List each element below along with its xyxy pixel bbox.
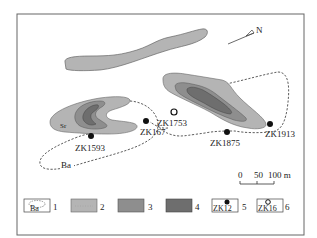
svg-text:5: 5 <box>242 202 247 212</box>
borehole-filled-icon <box>88 133 94 139</box>
svg-text:100 m: 100 m <box>268 170 291 180</box>
svg-text:6: 6 <box>285 202 290 212</box>
svg-text:1: 1 <box>53 202 58 212</box>
svg-text:0: 0 <box>238 170 243 180</box>
borehole-filled-icon <box>224 129 230 135</box>
north-label: N <box>256 25 263 35</box>
svg-text:ZK12: ZK12 <box>213 204 232 213</box>
borehole-filled-icon <box>143 118 149 124</box>
svg-text:Ba: Ba <box>30 204 39 213</box>
svg-text:ZK1875: ZK1875 <box>210 138 240 148</box>
svg-text:ZK1753: ZK1753 <box>157 118 187 128</box>
sr-label: Sr <box>60 122 67 130</box>
svg-text:50: 50 <box>254 170 264 180</box>
ba-label: Ba <box>61 160 71 170</box>
svg-text:ZK1593: ZK1593 <box>75 143 105 153</box>
legend-item-ba-boundary: Ba 1 <box>24 199 58 213</box>
svg-text:ZK167: ZK167 <box>140 127 166 137</box>
borehole-open-icon <box>171 109 177 115</box>
svg-text:3: 3 <box>148 202 153 212</box>
legend-item-borehole-filled: ZK12 5 <box>212 199 247 213</box>
svg-text:4: 4 <box>195 202 200 212</box>
svg-text:ZK1913: ZK1913 <box>265 129 295 139</box>
svg-text:ZK16: ZK16 <box>258 204 277 213</box>
borehole-filled-icon <box>267 121 273 127</box>
svg-text:2: 2 <box>100 202 105 212</box>
legend-item-borehole-open: ZK16 6 <box>257 199 290 213</box>
geological-map: N Sr Ba ZK1593 ZK167 ZK1753 ZK1875 ZK191… <box>0 0 317 238</box>
